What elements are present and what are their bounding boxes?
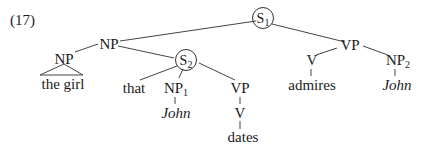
node-np-top: NP xyxy=(99,37,118,52)
leaf-john-1: John xyxy=(161,106,190,121)
leaf-john-2: John xyxy=(382,78,411,93)
node-v-main: V xyxy=(307,53,318,68)
node-vp-main: VP xyxy=(340,38,359,53)
node-np1: NP1 xyxy=(164,81,188,100)
node-vp-inner: VP xyxy=(230,81,249,96)
example-number: (17) xyxy=(10,12,35,29)
node-s2: S2 xyxy=(175,49,197,71)
node-v-inner: V xyxy=(235,106,246,121)
leaf-admires: admires xyxy=(288,78,335,93)
leaf-dates: dates xyxy=(228,130,259,145)
leaf-the-girl: the girl xyxy=(42,77,85,92)
node-np2: NP2 xyxy=(386,53,410,72)
tree-edges xyxy=(0,0,423,145)
node-s1: S1 xyxy=(252,7,274,29)
node-np-head: NP xyxy=(54,52,73,67)
leaf-that: that xyxy=(123,81,146,96)
